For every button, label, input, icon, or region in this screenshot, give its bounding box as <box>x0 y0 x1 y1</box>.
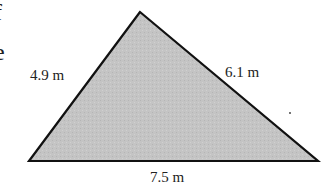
edge-fragment-2: e <box>0 39 5 65</box>
side-label-bottom: 7.5 m <box>150 169 185 185</box>
edge-fragment-1: f <box>0 0 2 25</box>
side-label-right: 6.1 m <box>225 64 260 80</box>
speck-dot <box>289 112 291 114</box>
triangle-shape <box>29 12 318 161</box>
triangle-diagram: f e 4.9 m 6.1 m 7.5 m <box>0 0 328 195</box>
side-label-left: 4.9 m <box>30 67 65 83</box>
diagram-canvas: f e 4.9 m 6.1 m 7.5 m <box>0 0 328 195</box>
